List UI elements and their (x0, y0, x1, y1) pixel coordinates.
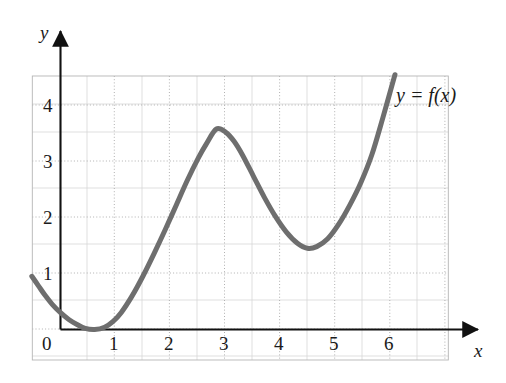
function-graph-svg (0, 0, 506, 383)
function-curve (32, 75, 395, 330)
x-tick-label-6: 6 (384, 334, 394, 353)
x-tick-label-5: 5 (329, 334, 339, 353)
x-axis-label: x (474, 341, 482, 360)
curve-label-annotation: y = f(x) (396, 85, 456, 105)
y-tick-label-4: 4 (43, 96, 53, 115)
x-tick-label-4: 4 (274, 334, 284, 353)
y-tick-label-2: 2 (43, 208, 53, 227)
y-tick-label-3: 3 (43, 152, 53, 171)
graph-figure: 0 1 2 3 4 5 6 1 2 3 4 y x y = f(x) (0, 0, 506, 383)
curve-label-text: y = f(x) (396, 84, 456, 106)
grid-frame (32, 76, 448, 360)
y-tick-label-1: 1 (43, 264, 53, 283)
grid-minor (32, 76, 448, 360)
x-tick-label-1: 1 (109, 334, 119, 353)
grid-major-dotted (32, 76, 448, 360)
x-tick-label-0: 0 (42, 334, 52, 353)
x-tick-label-3: 3 (219, 334, 229, 353)
y-axis-label: y (40, 23, 48, 42)
x-tick-label-2: 2 (164, 334, 174, 353)
